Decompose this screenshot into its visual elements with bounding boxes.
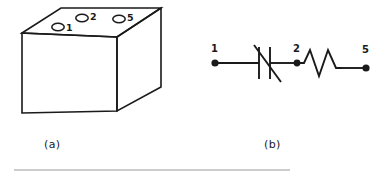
figure-root: 1 2 5 1 2 5 (a) (b) — [0, 0, 387, 180]
bottom-rule — [0, 0, 387, 180]
